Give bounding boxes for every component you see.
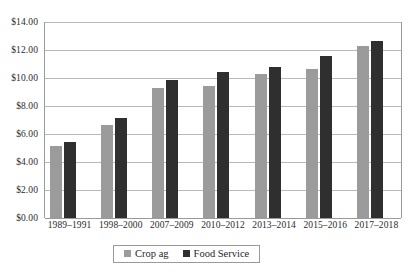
- x-axis-tick-label: 1998–2000: [95, 220, 146, 230]
- bar-food-service: [217, 72, 229, 218]
- bar-crop-ag: [306, 69, 318, 218]
- bars-layer: [44, 22, 402, 218]
- bar-crop-ag: [101, 125, 113, 218]
- bar-food-service: [166, 80, 178, 218]
- bar-food-service: [115, 118, 127, 218]
- bar-group: [351, 22, 402, 218]
- y-axis-tick-label: $12.00: [11, 45, 38, 55]
- y-axis-tick-label: $6.00: [16, 129, 38, 139]
- chart-legend: Crop agFood Service: [113, 245, 260, 263]
- legend-entry: Food Service: [183, 248, 250, 259]
- y-axis-tick-label: $8.00: [16, 101, 38, 111]
- y-axis: $0.00$2.00$4.00$6.00$8.00$10.00$12.00$14…: [0, 0, 42, 272]
- bar-crop-ag: [203, 86, 215, 218]
- bar-group: [44, 22, 95, 218]
- bar-group: [249, 22, 300, 218]
- bar-food-service: [64, 142, 76, 218]
- y-axis-tick-label: $10.00: [11, 73, 38, 83]
- y-axis-tick-label: $4.00: [16, 157, 38, 167]
- x-axis-tick-label: 2015–2016: [300, 220, 351, 230]
- bar-food-service: [269, 67, 281, 218]
- legend-label: Crop ag: [135, 248, 169, 259]
- x-axis-tick-label: 2017–2018: [351, 220, 402, 230]
- y-axis-tick-label: $14.00: [11, 17, 38, 27]
- y-axis-tick-label: $0.00: [16, 213, 38, 223]
- bar-group: [146, 22, 197, 218]
- legend-swatch-icon: [183, 250, 190, 257]
- x-axis-tick-label: 2010–2012: [197, 220, 248, 230]
- x-axis-tick-label: 2013–2014: [249, 220, 300, 230]
- bar-food-service: [320, 56, 332, 218]
- bar-crop-ag: [255, 74, 267, 218]
- bar-crop-ag: [357, 46, 369, 218]
- x-axis-tick-label: 1989–1991: [44, 220, 95, 230]
- x-axis-tick-label: 2007–2009: [146, 220, 197, 230]
- bar-food-service: [371, 41, 383, 218]
- legend-label: Food Service: [194, 248, 250, 259]
- legend-swatch-icon: [124, 250, 131, 257]
- bar-chart: $0.00$2.00$4.00$6.00$8.00$10.00$12.00$14…: [0, 0, 412, 272]
- bar-crop-ag: [50, 146, 62, 218]
- bar-group: [197, 22, 248, 218]
- x-axis: 1989–19911998–20002007–20092010–20122013…: [44, 220, 402, 238]
- bar-crop-ag: [152, 88, 164, 218]
- bar-group: [95, 22, 146, 218]
- bar-group: [300, 22, 351, 218]
- legend-entry: Crop ag: [124, 248, 169, 259]
- y-axis-tick-label: $2.00: [16, 185, 38, 195]
